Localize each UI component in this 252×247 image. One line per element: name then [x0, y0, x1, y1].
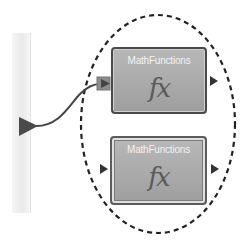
- node-title: MathFunctions: [112, 144, 205, 155]
- node-title: MathFunctions: [113, 55, 205, 66]
- math-functions-node-1[interactable]: MathFunctions fx: [111, 47, 207, 114]
- rail-output-port-icon[interactable]: [19, 117, 38, 136]
- function-fx-icon: fx: [112, 162, 205, 192]
- node1-output-port-icon[interactable]: [210, 76, 218, 86]
- node2-input-port-icon[interactable]: [100, 164, 108, 174]
- diagram-overlay: [0, 0, 252, 247]
- connection-wire[interactable]: [36, 84, 100, 126]
- node2-output-port-icon[interactable]: [211, 164, 219, 174]
- diagram-canvas: MathFunctions fx MathFunctions fx: [0, 0, 252, 247]
- math-functions-node-2[interactable]: MathFunctions fx: [110, 136, 207, 205]
- function-fx-icon: fx: [113, 73, 205, 103]
